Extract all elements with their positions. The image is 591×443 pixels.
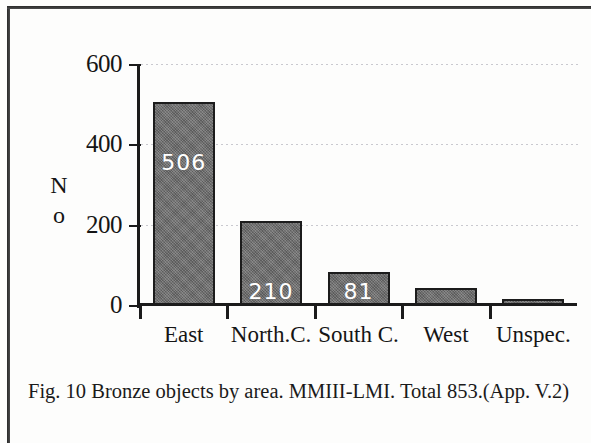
x-tick-mark — [226, 306, 229, 319]
x-tick-mark — [401, 306, 404, 319]
bar-chart-plot: 0200400600 N o 50621081 EastNorth.C.Sout… — [0, 0, 591, 360]
bar[interactable]: 81 — [328, 272, 390, 305]
bar-value-label: 506 — [155, 152, 213, 174]
x-tick-mark — [489, 306, 492, 319]
bar[interactable] — [502, 299, 564, 305]
bar-value-label: 210 — [242, 281, 300, 303]
figure-page: 0200400600 N o 50621081 EastNorth.C.Sout… — [0, 0, 591, 443]
bar[interactable]: 210 — [240, 221, 302, 305]
x-tick-mark — [139, 306, 142, 319]
bar-value-label: 81 — [330, 281, 388, 303]
x-tick-mark — [314, 306, 317, 319]
bars-group: 50621081 — [0, 0, 591, 360]
bar[interactable] — [415, 288, 477, 305]
x-tick-label: Unspec. — [463, 322, 591, 348]
bar[interactable]: 506 — [153, 102, 215, 305]
figure-caption: Fig. 10 Bronze objects by area. MMIII-LM… — [28, 378, 590, 404]
